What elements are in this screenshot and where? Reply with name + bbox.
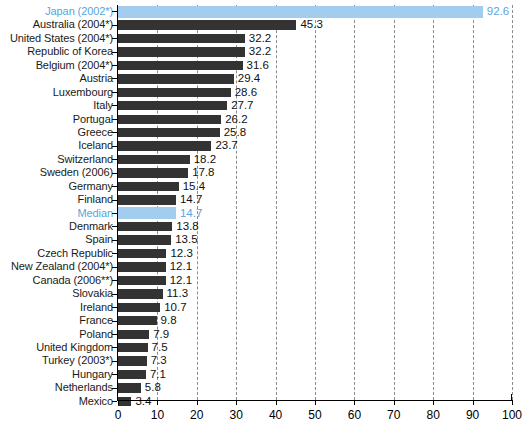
bar [118, 182, 179, 191]
category-label: Median [78, 207, 113, 220]
category-label: Switzerland [57, 153, 113, 166]
y-tick [112, 361, 117, 362]
y-tick [112, 388, 117, 389]
y-tick [112, 25, 117, 26]
value-label: 14.7 [176, 193, 202, 206]
value-label: 18.2 [190, 153, 216, 166]
category-label: Republic of Korea [27, 45, 113, 58]
chart-row: Finland14.7 [0, 193, 528, 206]
bar [118, 195, 176, 204]
value-label: 7.9 [149, 328, 169, 341]
bar [118, 222, 172, 231]
value-label: 12.1 [166, 274, 192, 287]
bar [118, 128, 220, 137]
bar [118, 6, 483, 18]
chart-row: United States (2004*)32.2 [0, 32, 528, 45]
x-tick-label-30: 30 [230, 408, 243, 422]
chart-row: Median14.7 [0, 207, 528, 220]
y-tick [112, 186, 117, 187]
y-tick [112, 374, 117, 375]
chart-row: Greece25.8 [0, 126, 528, 139]
bar [118, 397, 131, 406]
x-tick-label-40: 40 [269, 408, 282, 422]
bar [118, 168, 188, 177]
x-tick-label-0: 0 [115, 408, 122, 422]
y-tick [112, 226, 117, 227]
y-tick [112, 119, 117, 120]
chart-row: Portugal26.2 [0, 113, 528, 126]
bar [118, 303, 160, 312]
chart-row: Japan (2002*)92.6 [0, 5, 528, 18]
bar [118, 383, 141, 392]
y-tick [112, 92, 117, 93]
value-label: 28.6 [231, 86, 257, 99]
bar-chart: Japan (2002*)92.6Australia (2004*)45.3Un… [0, 0, 528, 435]
x-tick-label-20: 20 [190, 408, 203, 422]
chart-row: France9.8 [0, 314, 528, 327]
value-label: 9.8 [157, 314, 177, 327]
category-label: Denmark [69, 220, 113, 233]
y-tick [112, 280, 117, 281]
value-label: 7.1 [146, 368, 166, 381]
y-tick [112, 240, 117, 241]
y-tick [112, 173, 117, 174]
value-label: 17.8 [188, 166, 214, 179]
category-label: France [79, 314, 113, 327]
chart-row: Germany15.4 [0, 180, 528, 193]
category-label: Japan (2002*) [45, 5, 113, 18]
x-tick-label-70: 70 [387, 408, 400, 422]
chart-row: Republic of Korea32.2 [0, 45, 528, 58]
category-label: Canada (2006**) [33, 274, 113, 287]
bar [118, 235, 171, 244]
value-label: 7.3 [147, 354, 167, 367]
y-tick [112, 132, 117, 133]
x-tick-30 [236, 400, 237, 405]
x-tick-80 [433, 400, 434, 405]
x-tick-100 [512, 400, 513, 405]
value-label: 13.8 [172, 220, 198, 233]
value-label: 92.6 [483, 5, 509, 18]
bar [118, 316, 157, 325]
category-label: United States (2004*) [10, 32, 113, 45]
value-label: 26.2 [221, 113, 247, 126]
value-label: 12.3 [166, 247, 192, 260]
y-tick [112, 105, 117, 106]
x-tick-0 [118, 400, 119, 405]
x-tick-label-10: 10 [151, 408, 164, 422]
x-tick-20 [197, 400, 198, 405]
value-label: 25.8 [220, 126, 246, 139]
y-tick [112, 347, 117, 348]
value-label: 12.1 [166, 260, 192, 273]
y-tick [112, 321, 117, 322]
chart-row: Iceland23.7 [0, 139, 528, 152]
y-tick [112, 253, 117, 254]
bar [118, 356, 147, 365]
category-label: Austria [79, 72, 113, 85]
chart-row: Switzerland18.2 [0, 153, 528, 166]
category-label: United Kingdom [36, 341, 113, 354]
value-label: 23.7 [211, 139, 237, 152]
x-tick-10 [157, 400, 158, 405]
category-label: New Zealand (2004*) [11, 260, 113, 273]
value-label: 5.8 [141, 381, 161, 394]
category-label: Iceland [78, 139, 113, 152]
value-label: 29.4 [234, 72, 260, 85]
category-label: Ireland [80, 301, 113, 314]
value-label: 14.7 [176, 207, 202, 220]
x-tick-label-50: 50 [308, 408, 321, 422]
category-label: Luxembourg [53, 86, 113, 99]
chart-row: Czech Republic12.3 [0, 247, 528, 260]
chart-row: Luxembourg28.6 [0, 86, 528, 99]
y-tick [112, 200, 117, 201]
chart-row: Turkey (2003*)7.3 [0, 354, 528, 367]
bar [118, 262, 166, 271]
x-tick-70 [394, 400, 395, 405]
y-tick [112, 146, 117, 147]
value-label: 27.7 [227, 99, 253, 112]
x-tick-label-90: 90 [466, 408, 479, 422]
value-label: 45.3 [296, 18, 322, 31]
x-tick-40 [276, 400, 277, 405]
chart-row: Netherlands5.8 [0, 381, 528, 394]
bar [118, 88, 231, 97]
category-label: Slovakia [72, 287, 113, 300]
